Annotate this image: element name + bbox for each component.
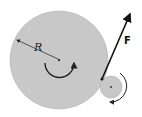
diagram-canvas: R F — [0, 0, 142, 117]
large-wheel-center — [58, 59, 60, 61]
small-wheel-center — [110, 86, 112, 88]
large-wheel — [10, 11, 108, 109]
contact-point — [101, 78, 104, 81]
force-label: F — [124, 35, 131, 46]
radius-label: R — [33, 41, 42, 54]
